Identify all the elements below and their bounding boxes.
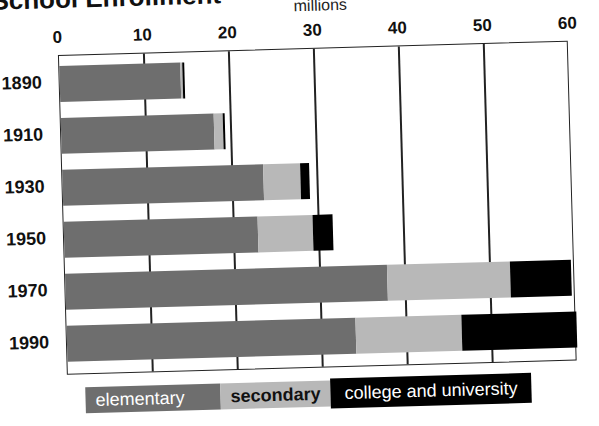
bar-1970 [65, 260, 572, 310]
bar-segment-secondary [257, 215, 313, 253]
bar-segment-college-and-university [510, 260, 571, 298]
legend-item: elementary [85, 384, 221, 414]
bar-segment-elementary [61, 114, 215, 154]
bar-1930 [62, 163, 310, 206]
bar-segment-secondary [355, 315, 462, 354]
bar-segment-elementary [66, 318, 356, 362]
legend: elementarysecondarycollege and universit… [85, 371, 532, 417]
bar-segment-elementary [59, 63, 181, 102]
chart: School Enrollment millions 0102030405060… [0, 0, 599, 426]
bar-segment-college-and-university [182, 62, 185, 98]
x-tick: 0 [52, 28, 62, 48]
x-tick: 60 [558, 13, 577, 34]
plot-area [58, 41, 577, 375]
bar-1990 [66, 312, 577, 362]
bar-segment-college-and-university [300, 163, 310, 199]
legend-item: secondary [220, 380, 331, 409]
legend-item: college and university [330, 373, 532, 409]
x-tick: 20 [218, 23, 237, 44]
y-label: 1990 [9, 332, 50, 354]
bar-1890 [59, 62, 185, 101]
bar-1910 [61, 113, 226, 154]
x-tick: 30 [303, 21, 322, 42]
bar-segment-elementary [64, 216, 259, 257]
bar-segment-college-and-university [462, 312, 578, 351]
y-label: 1970 [7, 280, 48, 302]
chart-title: School Enrollment [0, 0, 221, 17]
x-tick: 40 [388, 18, 407, 39]
y-label: 1910 [3, 124, 44, 146]
bar-1950 [64, 214, 333, 257]
y-label: 1890 [1, 72, 42, 94]
bar-segment-elementary [62, 164, 264, 206]
bar-segment-secondary [387, 261, 511, 300]
bar-segment-college-and-university [222, 113, 226, 149]
x-axis-label: millions [293, 0, 347, 15]
bar-segment-college-and-university [313, 214, 334, 251]
x-tick: 10 [133, 25, 152, 46]
y-label: 1930 [4, 176, 45, 198]
bar-segment-elementary [65, 265, 388, 310]
x-tick: 50 [473, 16, 492, 37]
bar-segment-secondary [263, 163, 301, 200]
y-label: 1950 [6, 228, 47, 250]
